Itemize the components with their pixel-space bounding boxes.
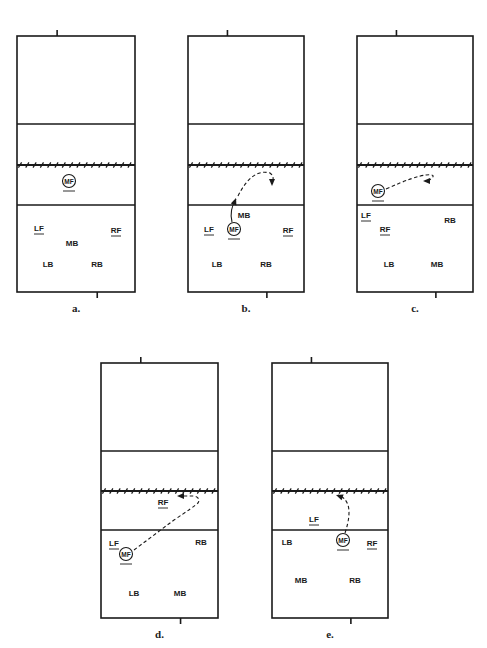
player-label: MB xyxy=(174,589,187,598)
player-mf: MF xyxy=(228,223,241,240)
player-label: LB xyxy=(384,260,395,269)
player-rb: RB xyxy=(260,260,272,269)
player-mf: MF xyxy=(372,185,385,202)
player-label: LF xyxy=(204,225,214,234)
player-label: LF xyxy=(34,224,44,233)
arrowhead-icon xyxy=(177,493,184,499)
arrowhead-icon xyxy=(269,179,275,186)
player-lf: LF xyxy=(109,539,119,549)
player-rf: RF xyxy=(158,498,169,508)
player-lf: LF xyxy=(34,224,44,234)
player-label: MF xyxy=(373,188,382,195)
player-rb: RB xyxy=(349,576,361,585)
net xyxy=(357,162,473,167)
net xyxy=(101,488,218,493)
player-mb: MB xyxy=(66,239,79,248)
player-label: MF xyxy=(338,537,347,544)
player-rf: RF xyxy=(111,226,122,236)
court-panel-d: RFLFRBMFLBMBd. xyxy=(101,357,218,640)
net xyxy=(188,162,304,167)
player-mb: MB xyxy=(238,211,251,220)
panel-caption: e. xyxy=(326,628,334,640)
player-lb: LB xyxy=(43,260,54,269)
panel-caption: d. xyxy=(155,628,164,640)
player-label: RB xyxy=(444,216,456,225)
court-panel-e: LFLBMFRFMBRBe. xyxy=(272,357,388,640)
court-panel-b: MBLFMFRFLBRBb. xyxy=(188,30,304,314)
player-lf: LF xyxy=(361,211,371,221)
player-rb: RB xyxy=(91,260,103,269)
player-rb: RB xyxy=(444,216,456,225)
player-label: LF xyxy=(109,539,119,548)
player-label: MB xyxy=(238,211,251,220)
player-label: MB xyxy=(431,260,444,269)
player-rf: RF xyxy=(283,226,294,236)
player-rb: RB xyxy=(195,538,207,547)
net xyxy=(272,488,388,493)
player-rf: RF xyxy=(367,539,378,549)
dashed-movement-path xyxy=(338,495,349,533)
arrowhead-icon xyxy=(423,178,430,184)
panel-caption: b. xyxy=(242,302,251,314)
player-lf: LF xyxy=(204,225,214,235)
player-label: LF xyxy=(309,515,319,524)
player-lb: LB xyxy=(384,260,395,269)
player-label: RF xyxy=(380,225,391,234)
player-lb: LB xyxy=(212,260,223,269)
player-mb: MB xyxy=(174,589,187,598)
player-lb: LB xyxy=(129,589,140,598)
player-rf: RF xyxy=(380,225,391,235)
player-label: RB xyxy=(349,576,361,585)
player-label: LB xyxy=(282,538,293,547)
court-panel-c: MFLFRBRFLBMBc. xyxy=(357,30,473,314)
player-label: RB xyxy=(260,260,272,269)
panel-caption: c. xyxy=(411,302,419,314)
player-label: LB xyxy=(43,260,54,269)
net xyxy=(17,162,135,167)
player-label: RF xyxy=(283,226,294,235)
panel-caption: a. xyxy=(72,302,81,314)
player-mb: MB xyxy=(431,260,444,269)
player-label: MF xyxy=(121,551,130,558)
player-mf: MF xyxy=(120,548,133,565)
player-label: LB xyxy=(212,260,223,269)
player-label: LB xyxy=(129,589,140,598)
player-lf: LF xyxy=(309,515,319,525)
player-label: MB xyxy=(295,576,308,585)
player-mf: MF xyxy=(337,534,350,551)
diagram-canvas: MFLFMBRFLBRBa.MBLFMFRFLBRBb.MFLFRBRFLBMB… xyxy=(0,0,487,648)
player-label: MB xyxy=(66,239,79,248)
player-lb: LB xyxy=(282,538,293,547)
player-label: MF xyxy=(229,226,238,233)
player-label: RF xyxy=(367,539,378,548)
player-label: RF xyxy=(158,498,169,507)
player-mb: MB xyxy=(295,576,308,585)
player-label: MF xyxy=(64,178,73,185)
player-label: LF xyxy=(361,211,371,220)
player-mf: MF xyxy=(63,175,76,192)
dashed-movement-path xyxy=(238,172,273,196)
court-panel-a: MFLFMBRFLBRBa. xyxy=(17,30,135,314)
player-label: RF xyxy=(111,226,122,235)
player-label: RB xyxy=(195,538,207,547)
player-label: RB xyxy=(91,260,103,269)
